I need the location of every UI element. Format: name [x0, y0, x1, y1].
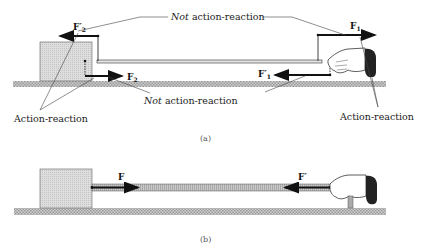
not-ar-top-leader-left	[78, 17, 168, 31]
diagram-stage: F′2 F2 F1 F′1 Not action-reaction Not ac…	[0, 0, 426, 251]
not-ar-bottom-label: Not action-reaction	[143, 95, 238, 106]
ground-b	[14, 208, 386, 215]
ground-a	[13, 81, 186, 87]
f2-prime-label: F′2	[73, 22, 86, 33]
f2-label: F2	[127, 72, 138, 83]
hand-icon	[328, 48, 376, 77]
ar-right-label: Action-reaction	[339, 111, 414, 122]
f2-point	[84, 60, 87, 63]
f-point	[91, 186, 94, 189]
caption-a: (a)	[200, 134, 211, 143]
ar-left-label: Action-reaction	[13, 113, 88, 124]
f1-prime-label: F′1	[258, 69, 271, 80]
f-label: F	[118, 172, 125, 182]
ground-a-right	[186, 81, 386, 87]
caption-b: (b)	[200, 235, 211, 244]
not-ar-top-leader-right	[262, 17, 345, 35]
panel-a: F′2 F2 F1 F′1 Not action-reaction Not ac…	[13, 11, 414, 143]
diagram-svg: F′2 F2 F1 F′1 Not action-reaction Not ac…	[0, 0, 426, 251]
f-prime-label: F′	[298, 172, 307, 182]
f1-label: F1	[350, 21, 361, 32]
hand-b-icon	[330, 175, 377, 208]
panel-b: F F′ (b)	[14, 169, 386, 244]
rope-a	[97, 60, 322, 63]
not-ar-top-label: Not action-reaction	[170, 11, 265, 22]
block-b	[40, 169, 92, 208]
